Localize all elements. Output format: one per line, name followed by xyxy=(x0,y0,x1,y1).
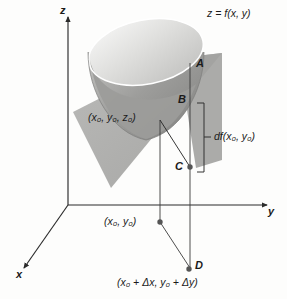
ground-line-PD xyxy=(160,222,190,268)
x-axis xyxy=(24,205,68,268)
dot-D xyxy=(186,266,191,271)
differential-label: df(x₀, y₀) xyxy=(214,131,255,142)
point-label-A: A xyxy=(196,58,204,69)
y-axis-label: y xyxy=(268,206,274,217)
offset-point-coordinate-label: (x₀ + Δx, y₀ + Δy) xyxy=(117,277,198,288)
surface-equation-label: z = f(x, y) xyxy=(207,8,250,19)
point-dots xyxy=(157,164,192,271)
base-point-coordinate-label: (x₀, y₀) xyxy=(104,216,136,227)
figure-canvas: z y x z = f(x, y) A B C D (x₀, y₀, z₀) (… xyxy=(0,0,287,299)
x-axis-label: x xyxy=(16,269,22,280)
dot-C xyxy=(187,164,192,169)
diagram-svg xyxy=(0,0,287,299)
point-label-C: C xyxy=(175,161,183,172)
dot-base-point xyxy=(157,219,162,224)
point-label-B: B xyxy=(178,94,186,105)
z-axis-label: z xyxy=(60,5,66,16)
point-label-D: D xyxy=(195,260,203,271)
tangent-point-coordinate-label: (x₀, y₀, z₀) xyxy=(88,112,136,123)
